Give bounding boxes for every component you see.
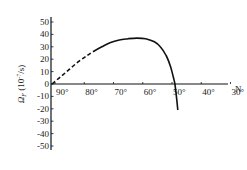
- x-tick-label: 60°: [144, 87, 157, 97]
- svg-text:ΩF (10-7/s): ΩF (10-7/s): [16, 65, 27, 103]
- x-tick-label: 40°: [202, 87, 215, 97]
- data-series: [52, 38, 178, 110]
- y-tick-label: 40: [40, 29, 50, 39]
- y-tick-label: 10: [40, 67, 50, 77]
- y-axis-label: ΩF (10-7/s): [16, 65, 27, 103]
- solid-curve: [93, 38, 178, 110]
- x-axis-label: N: [235, 84, 242, 94]
- y-tick-label: 20: [40, 54, 50, 64]
- x-tick-label: 80°: [85, 87, 98, 97]
- x-tick-label: 90°: [56, 87, 69, 97]
- y-tick-label: 50: [40, 17, 50, 27]
- y-tick-label: -40: [37, 129, 49, 139]
- chart: 50403020100-10-20-30-40-50 90°80°70°60°5…: [0, 0, 247, 170]
- y-tick-label: -20: [37, 104, 49, 114]
- x-axis: 90°80°70°60°50°40°30° N: [51, 82, 245, 97]
- y-tick-label: -50: [37, 141, 49, 151]
- x-tick-label: 70°: [115, 87, 128, 97]
- y-tick-label: 0: [45, 79, 50, 89]
- y-tick-label: -30: [37, 116, 49, 126]
- dashed-curve: [52, 52, 93, 84]
- y-tick-label: 30: [40, 42, 50, 52]
- y-tick-label: -10: [37, 91, 49, 101]
